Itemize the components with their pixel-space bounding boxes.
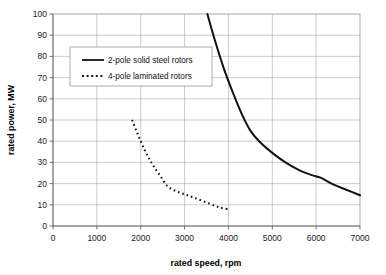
y-axis-tickmarks [50,14,54,226]
y-axis-tick-labels: 0102030405060708090100 [33,9,47,231]
x-axis-tickmarks [53,226,360,230]
x-tick-label: 6000 [307,233,326,243]
x-axis-title: rated speed, rpm [171,258,242,268]
x-tick-label: 4000 [219,233,238,243]
y-tick-label: 60 [38,94,48,104]
legend-label-4-pole: 4-pole laminated rotors [108,72,192,81]
y-tick-label: 100 [33,9,47,19]
x-axis-tick-labels: 01000200030004000500060007000 [51,233,370,243]
legend: 2-pole solid steel rotors 4-pole laminat… [70,47,212,86]
legend-label-2-pole: 2-pole solid steel rotors [108,56,193,65]
y-tick-label: 90 [38,30,48,40]
y-tick-label: 20 [38,179,48,189]
y-tick-label: 30 [38,157,48,167]
x-tick-label: 2000 [131,233,150,243]
y-tick-label: 70 [38,73,48,83]
x-tick-label: 7000 [351,233,370,243]
x-tick-label: 5000 [263,233,282,243]
chart-container: 0102030405060708090100 01000200030004000… [0,0,386,275]
x-tick-label: 0 [51,233,56,243]
y-tick-label: 40 [38,136,48,146]
y-tick-label: 50 [38,115,48,125]
x-tick-label: 1000 [87,233,106,243]
y-axis-title: rated power, MW [6,84,16,155]
rated-power-vs-speed-chart: 0102030405060708090100 01000200030004000… [0,0,386,275]
y-tick-label: 80 [38,51,48,61]
y-tick-label: 10 [38,200,48,210]
x-tick-label: 3000 [175,233,194,243]
y-tick-label: 0 [42,221,47,231]
